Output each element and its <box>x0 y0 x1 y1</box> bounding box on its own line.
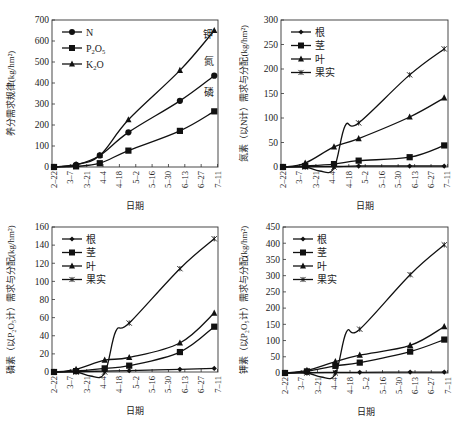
x-tick-label: 5–30 <box>393 171 403 188</box>
x-axis-title: 日期 <box>126 201 144 211</box>
legend-item: 果实 <box>293 273 337 285</box>
y-tick-label: 140 <box>35 240 50 250</box>
y-tick-label: 50 <box>271 352 281 362</box>
y-tick-label: 450 <box>266 222 281 232</box>
legend-label: 茎 <box>86 247 96 258</box>
x-axis-title: 日期 <box>357 407 375 417</box>
x-tick-label: 6–13 <box>180 171 190 188</box>
series-line <box>54 76 214 167</box>
x-tick-label: 3–7 <box>65 171 75 184</box>
x-tick-label: 3–7 <box>65 376 75 389</box>
x-tick-label: 6–13 <box>410 171 420 188</box>
y-tick-label: 600 <box>35 36 50 46</box>
legend-item: 根 <box>62 233 96 245</box>
legend-item: 叶 <box>291 54 325 65</box>
y-tick-label: 100 <box>35 141 50 151</box>
chart-phosphorus-distribution: 0204060801001201401602–223–73–214–44–185… <box>0 212 232 424</box>
plot-frame <box>283 227 448 373</box>
legend-item: K2O <box>62 59 104 72</box>
x-tick-label: 7–11 <box>442 171 452 188</box>
x-tick-label: 2–22 <box>278 171 288 188</box>
series-line <box>285 327 444 373</box>
chart-potassium-svg: 0501001502002503003504004502–223–73–214–… <box>233 212 465 424</box>
data-point <box>127 320 132 325</box>
series-line <box>54 313 214 372</box>
data-point <box>356 163 361 168</box>
series-line <box>283 98 444 167</box>
series-line <box>54 327 214 372</box>
data-point <box>211 324 217 330</box>
data-point <box>211 73 217 79</box>
x-tick-label: 5–30 <box>394 377 404 394</box>
y-tick-label: 300 <box>264 15 279 25</box>
y-tick-label: 40 <box>40 331 50 341</box>
chart-total-nutrient-demand: 01002003004005006007002–223–73–214–44–18… <box>0 0 232 212</box>
x-tick-label: 6–13 <box>180 376 190 393</box>
x-tick-label: 4–18 <box>344 171 354 188</box>
legend: 根茎叶果实 <box>291 26 335 79</box>
y-tick-label: 120 <box>35 259 50 269</box>
legend-marker <box>69 250 75 256</box>
x-tick-label: 6–27 <box>196 171 206 188</box>
legend-label: K2O <box>86 59 104 72</box>
y-tick-label: 300 <box>35 99 50 109</box>
y-tick-label: 400 <box>35 78 50 88</box>
x-tick-label: 5–30 <box>163 376 173 393</box>
legend-marker <box>69 236 74 241</box>
annotation-label: 氮 <box>204 55 214 67</box>
series-line <box>54 31 214 168</box>
data-point <box>177 128 183 134</box>
y-tick-label: 500 <box>35 57 50 67</box>
legend-item: N <box>62 27 93 38</box>
y-tick-label: 150 <box>266 320 281 330</box>
data-point <box>356 158 362 164</box>
x-tick-label: 6–27 <box>196 376 206 393</box>
x-tick-label: 3–21 <box>82 376 92 393</box>
y-tick-label: 100 <box>266 336 281 346</box>
annotation-label: 钾 <box>203 28 213 40</box>
y-tick-label: 0 <box>275 368 280 378</box>
series-line <box>285 340 444 373</box>
data-point <box>441 94 447 100</box>
data-point <box>442 46 447 51</box>
data-point <box>442 163 447 168</box>
x-tick-label: 7–11 <box>213 171 223 188</box>
series-triangle <box>282 323 447 376</box>
y-tick-label: 250 <box>266 287 281 297</box>
data-point <box>212 366 217 371</box>
legend-label: 果实 <box>317 273 337 285</box>
legend-label: 果实 <box>315 66 335 78</box>
x-tick-label: 7–11 <box>443 377 453 394</box>
y-tick-label: 100 <box>264 113 279 123</box>
x-tick-label: 3–7 <box>294 171 304 184</box>
data-point <box>177 349 183 355</box>
y-tick-label: 0 <box>44 162 49 172</box>
x-tick-label: 5–2 <box>131 171 141 184</box>
x-tick-label: 5–16 <box>147 376 157 393</box>
y-tick-label: 0 <box>44 367 49 377</box>
legend: 根茎叶果实 <box>62 233 106 286</box>
data-point <box>441 323 447 329</box>
data-point <box>441 142 447 148</box>
legend: NP2O5K2O <box>62 27 105 72</box>
series-line <box>54 111 214 167</box>
y-tick-label: 50 <box>269 138 279 148</box>
plot-frame <box>281 20 448 167</box>
y-tick-label: 80 <box>40 295 50 305</box>
data-point <box>442 369 447 374</box>
series-square <box>51 108 217 170</box>
y-tick-label: 350 <box>266 255 281 265</box>
y-tick-label: 200 <box>35 120 50 130</box>
legend-item: 叶 <box>293 261 327 272</box>
legend-item: 叶 <box>62 261 96 272</box>
x-tick-label: 5–16 <box>378 377 388 394</box>
y-tick-label: 100 <box>35 277 50 287</box>
y-tick-label: 700 <box>35 15 50 25</box>
x-tick-label: 2–22 <box>49 376 59 393</box>
legend-label: 根 <box>317 233 327 245</box>
legend-label: 叶 <box>317 261 327 272</box>
y-axis-title: 养分需求规律(kg/hm²) <box>5 51 16 137</box>
x-tick-label: 3–21 <box>313 377 323 394</box>
legend-label: 叶 <box>315 54 325 65</box>
data-point <box>407 72 412 77</box>
